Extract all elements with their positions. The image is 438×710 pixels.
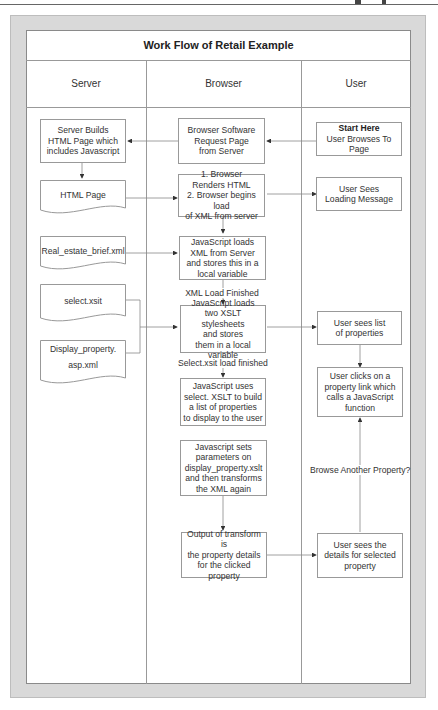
node-browser-renders: 1. Browser Renders HTML 2. Browser begin… bbox=[178, 174, 265, 217]
node-line: for the clicked property bbox=[184, 560, 264, 581]
node-line: 2. Browser begins load bbox=[181, 190, 262, 211]
node-js-loads-xslt: JavaScript loads two XSLT stylesheets an… bbox=[180, 305, 266, 353]
header-divider bbox=[26, 107, 411, 108]
lane-header-server: Server bbox=[26, 78, 146, 89]
node-line: function bbox=[345, 403, 375, 414]
edge-label-select-load-finished: Select.xsit load finished bbox=[176, 358, 270, 368]
node-line: Output of transform is bbox=[184, 529, 264, 550]
node-line: JavaScript loads bbox=[191, 237, 254, 248]
node-label: Real_estate_brief.xml bbox=[41, 246, 124, 263]
node-line: JavaScript loads bbox=[191, 298, 254, 309]
node-line: parameters on bbox=[196, 452, 251, 463]
node-user-list: User sees list of properties bbox=[317, 311, 402, 345]
node-line: XML from Server bbox=[190, 248, 255, 259]
doc-real-estate-brief: Real_estate_brief.xml bbox=[40, 236, 126, 272]
edge-label-xml-load-finished: XML Load Finished bbox=[178, 288, 266, 298]
node-user-clicks: User clicks on a property link which cal… bbox=[317, 367, 403, 417]
lane-header-browser: Browser bbox=[146, 78, 301, 89]
node-line: JavaScript uses bbox=[193, 381, 254, 392]
node-line: Display_property. bbox=[50, 344, 116, 361]
node-browser-request: Browser Software Request Page from Serve… bbox=[178, 118, 265, 164]
lane-divider bbox=[301, 60, 302, 684]
node-line: details for selected bbox=[324, 550, 396, 561]
doc-display-property: Display_property. asp.xml bbox=[40, 340, 126, 386]
node-line: HTML Page which bbox=[48, 136, 118, 147]
node-line: asp.xml bbox=[50, 360, 116, 377]
node-line: local variable bbox=[197, 269, 247, 280]
page-marker bbox=[382, 0, 386, 4]
page-marker bbox=[355, 0, 361, 4]
node-line: 1. Browser bbox=[201, 169, 242, 180]
node-js-loads-xml: JavaScript loads XML from Server and sto… bbox=[179, 236, 266, 280]
node-line: includes Javascript bbox=[47, 146, 120, 157]
node-line: Javascript sets bbox=[195, 442, 252, 453]
node-line: select. XSLT to build bbox=[184, 392, 262, 403]
node-output-transform: Output of transform is the property deta… bbox=[181, 532, 267, 578]
node-line: Server Builds bbox=[57, 125, 108, 136]
node-label: Display_property. asp.xml bbox=[50, 344, 116, 383]
page-top-rule bbox=[0, 4, 438, 5]
doc-select-xsit: select.xsit bbox=[40, 284, 126, 324]
node-title: Start Here bbox=[338, 123, 379, 134]
node-label: HTML Page bbox=[60, 190, 106, 207]
node-line: display_property.xslt bbox=[185, 463, 263, 474]
node-js-sets-params: Javascript sets parameters on display_pr… bbox=[180, 440, 267, 496]
node-line: Browser Software bbox=[188, 125, 256, 136]
node-line: a list of properties bbox=[189, 402, 257, 413]
node-line: and then transforms bbox=[185, 473, 261, 484]
node-start-here: Start Here User Browses To Page bbox=[316, 122, 402, 156]
lane-divider bbox=[146, 60, 147, 684]
node-line: of XML from server bbox=[185, 211, 258, 222]
node-line: User sees the bbox=[333, 540, 386, 551]
node-line: property link which bbox=[324, 382, 395, 393]
node-line: and stores this in a bbox=[186, 258, 258, 269]
node-line: from Server bbox=[199, 146, 244, 157]
diagram-title: Work Flow of Retail Example bbox=[26, 30, 411, 60]
node-line: User Sees bbox=[339, 184, 379, 195]
node-line: Loading Message bbox=[325, 194, 393, 205]
node-line: User sees list bbox=[334, 318, 386, 329]
node-server-builds: Server Builds HTML Page which includes J… bbox=[40, 119, 126, 163]
node-line: the XML again bbox=[196, 484, 251, 495]
node-line: of properties bbox=[336, 328, 384, 339]
node-js-uses-select: JavaScript uses select. XSLT to build a … bbox=[180, 378, 266, 426]
edge-label-browse-another: Browse Another Property? bbox=[310, 465, 410, 475]
title-divider bbox=[26, 60, 411, 61]
node-line: the property details bbox=[187, 550, 260, 561]
node-line: Request Page bbox=[194, 136, 248, 147]
node-user-details: User sees the details for selected prope… bbox=[317, 533, 403, 578]
node-line: property bbox=[344, 561, 376, 572]
node-line: User clicks on a bbox=[330, 371, 391, 382]
node-line: two XSLT stylesheets bbox=[183, 308, 263, 329]
node-label: select.xsit bbox=[64, 296, 102, 313]
node-line: calls a JavaScript bbox=[327, 392, 394, 403]
node-line: to display to the user bbox=[183, 413, 262, 424]
node-line: User Browses To Page bbox=[319, 134, 399, 155]
doc-html-page: HTML Page bbox=[40, 180, 126, 216]
node-line: Renders HTML bbox=[192, 180, 250, 191]
lane-header-user: User bbox=[301, 78, 411, 89]
node-line: and stores bbox=[203, 329, 243, 340]
node-user-loading: User Sees Loading Message bbox=[316, 177, 402, 211]
